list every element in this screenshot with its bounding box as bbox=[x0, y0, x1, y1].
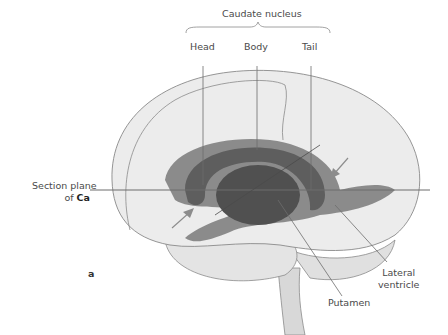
section-plane-line1: Section plane bbox=[32, 180, 90, 192]
panel-label: a bbox=[88, 268, 94, 280]
head-label: Head bbox=[190, 41, 215, 53]
lateral-ventricle-line2: ventricle bbox=[378, 279, 419, 291]
brain-stem bbox=[278, 268, 305, 335]
body-label: Body bbox=[244, 41, 268, 53]
section-plane-prefix: of bbox=[64, 192, 76, 203]
lateral-ventricle-label: Lateral ventricle bbox=[378, 267, 419, 291]
section-plane-line2: of Ca bbox=[32, 192, 90, 204]
caudate-nucleus-label: Caudate nucleus bbox=[222, 8, 302, 20]
putamen-label: Putamen bbox=[328, 297, 370, 309]
section-plane-ref: Ca bbox=[77, 192, 90, 203]
lateral-ventricle-line1: Lateral bbox=[378, 267, 419, 279]
putamen-shape bbox=[216, 165, 300, 225]
caudate-brace bbox=[186, 22, 330, 33]
section-plane-label: Section plane of Ca bbox=[32, 180, 90, 204]
tail-label: Tail bbox=[302, 41, 317, 53]
